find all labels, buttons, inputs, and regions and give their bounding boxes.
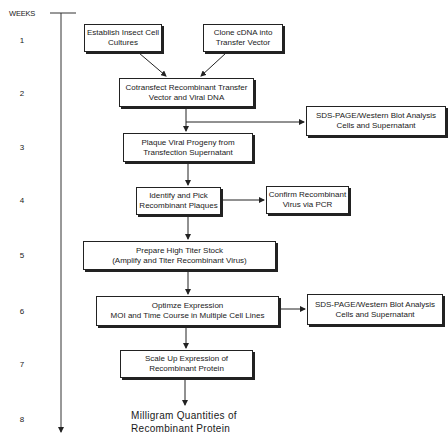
step-optimize-expression: Optimze Expression MOI and Time Course i… — [96, 296, 279, 326]
week-label-4: 4 — [12, 196, 32, 205]
step-text-line2: Transfer Vector — [216, 38, 270, 48]
step-text-line2: Vector and Viral DNA — [149, 93, 224, 103]
outcome-line2: Recombinant Protein — [131, 422, 237, 435]
week-label-5: 5 — [12, 251, 32, 260]
outcome-milligram-quantities: Milligram Quantities of Recombinant Prot… — [131, 409, 237, 435]
step-text-line2: Transfection Supernatant — [143, 148, 233, 158]
step-text-line2: Recombinant Plaques — [139, 201, 217, 211]
step-confirm-pcr: Confirm Recombinant Virus via PCR — [266, 186, 349, 214]
step-scale-up-expression: Scale Up Expression of Recombinant Prote… — [120, 350, 253, 378]
step-text-line2: Virus via PCR — [283, 200, 333, 210]
step-sds-page-analysis-1: SDS-PAGE/Western Blot Analysis Cells and… — [306, 106, 446, 136]
week-label-6: 6 — [12, 307, 32, 316]
week-label-2: 2 — [12, 89, 32, 98]
step-text-line2: Cells and Supernatant — [336, 121, 415, 131]
step-text-line1: Plaque Viral Progeny from — [141, 138, 234, 148]
week-label-3: 3 — [12, 143, 32, 152]
step-text-line2: MOI and Time Course in Multiple Cell Lin… — [111, 311, 265, 321]
step-text-line1: SDS-PAGE/Western Blot Analysis — [316, 111, 436, 121]
step-text-line2: (Amplify and Titer Recombinant Virus) — [112, 256, 247, 266]
week-label-7: 7 — [12, 360, 32, 369]
step-identify-plaques: Identify and Pick Recombinant Plaques — [136, 187, 221, 215]
step-text-line2: Cells and Supernatant — [335, 310, 414, 320]
step-text-line1: Establish Insect Cell — [87, 28, 159, 38]
step-text-line1: SDS-PAGE/Western Blot Analysis — [315, 300, 435, 310]
step-sds-page-analysis-2: SDS-PAGE/Western Blot Analysis Cells and… — [307, 294, 443, 325]
weeks-axis-title: WEEKS — [9, 9, 35, 18]
step-text-line1: Scale Up Expression of — [145, 354, 228, 364]
step-text-line1: Optimze Expression — [152, 301, 224, 311]
step-cotransfect: Cotransfect Recombinant Transfer Vector … — [119, 78, 254, 107]
step-text-line1: Clone cDNA into — [214, 28, 273, 38]
step-text-line1: Identify and Pick — [149, 191, 208, 201]
step-text-line2: Cultures — [108, 38, 138, 48]
step-prepare-high-titer-stock: Prepare High Titer Stock (Amplify and Ti… — [83, 241, 276, 270]
step-text-line2: Recombinant Protein — [149, 364, 224, 374]
step-text-line1: Cotransfect Recombinant Transfer — [126, 83, 248, 93]
step-establish-insect-cell-cultures: Establish Insect Cell Cultures — [84, 24, 162, 52]
step-clone-cdna: Clone cDNA into Transfer Vector — [203, 24, 283, 52]
week-label-8: 8 — [12, 415, 32, 424]
step-plaque-viral-progeny: Plaque Viral Progeny from Transfection S… — [123, 133, 253, 162]
step-text-line1: Confirm Recombinant — [269, 190, 346, 200]
step-text-line1: Prepare High Titer Stock — [136, 246, 223, 256]
outcome-line1: Milligram Quantities of — [131, 409, 237, 422]
week-label-1: 1 — [12, 36, 32, 45]
